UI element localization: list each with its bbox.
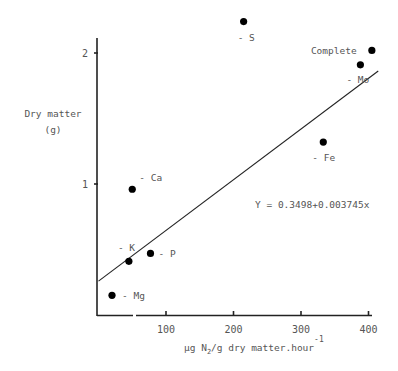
scatter-chart: 12 100200300400 - Mg- K- P- Ca- SComplet… [0,0,398,371]
data-point-label: - Ca [139,172,162,183]
data-point [357,61,364,68]
data-point-label: - Mg [122,290,145,301]
data-point [240,18,247,25]
data-point [147,250,154,257]
x-tick-label: 300 [292,324,310,335]
data-point-label: - S [238,32,255,43]
data-point [368,47,375,54]
x-tick-label: 200 [224,324,242,335]
x-ticks: 100200300400 [157,311,378,335]
regression-equation: Y = 0.3498+0.003745x [255,199,370,210]
data-point [129,186,136,193]
data-point [108,292,115,299]
x-tick-label: 100 [157,324,175,335]
x-tick-label: 400 [359,324,377,335]
x-axis-label: µg N2/g dry matter.hour-1 [184,335,324,356]
y-ticks: 12 [82,48,98,190]
axes [97,38,372,316]
data-point-label: Complete [311,45,357,56]
data-points: - Mg- K- P- Ca- SComplete- Mo- Fe [108,18,375,301]
data-point-label: - Mo [346,74,369,85]
data-point [320,138,327,145]
data-point-label: - P [158,248,175,259]
data-point-label: - K [118,242,135,253]
data-point-label: - Fe [312,152,335,163]
y-tick-label: 2 [82,48,88,59]
y-tick-label: 1 [82,179,88,190]
y-axis-label-line-1: Dry matter [24,108,81,119]
y-axis-label-line-2: (g) [44,124,61,135]
data-point [125,258,132,265]
